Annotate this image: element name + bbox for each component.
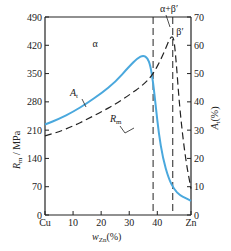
y-right-tick-label: 10: [194, 181, 204, 192]
series-label-rm: Rm: [109, 113, 122, 126]
y-left-axis-title: Rm / MPa: [11, 130, 24, 170]
x-tick-label: 10: [68, 217, 78, 228]
x-tick-label: Cu: [39, 217, 51, 228]
y-left-tick-label: 280: [27, 96, 42, 107]
y-left-tick-label: 140: [27, 153, 42, 164]
phase-label-alpha: α: [92, 38, 98, 49]
y-right-tick-label: 20: [194, 153, 204, 164]
x-axis-title: wZn(%): [92, 231, 121, 244]
x-tick-label: 40: [152, 217, 162, 228]
x-tick-label: Zn: [185, 217, 196, 228]
phase-label-alpha-beta: α+β′: [160, 3, 178, 14]
y-right-tick-label: 50: [194, 68, 204, 79]
x-tick-label: 20: [96, 217, 106, 228]
y-right-tick-label: 60: [194, 40, 204, 51]
y-right-axis-title: At(%): [209, 106, 222, 130]
y-left-tick-label: 70: [32, 181, 42, 192]
y-left-tick-label: 210: [27, 125, 42, 136]
y-left-tick-label: 350: [27, 68, 42, 79]
label-leader-rm: [120, 126, 134, 133]
y-right-tick-label: 30: [194, 125, 204, 136]
y-right-tick-label: 40: [194, 96, 204, 107]
y-right-tick-label: 70: [194, 12, 204, 23]
y-left-tick-label: 420: [27, 40, 42, 51]
series-rm-line: [45, 37, 191, 189]
x-tick-label: 30: [124, 217, 134, 228]
series-label-at: At: [69, 87, 78, 100]
chart: 070140210280350420490010203040506070Cu10…: [0, 0, 231, 251]
y-left-tick-label: 490: [27, 12, 42, 23]
phase-label-beta: β′: [176, 26, 183, 37]
